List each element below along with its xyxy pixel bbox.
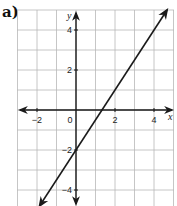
plotted-line <box>40 10 168 206</box>
y-tick-label: 4 <box>67 25 72 35</box>
y-tick-label: 2 <box>67 65 72 75</box>
y-tick-label: −4 <box>62 185 72 195</box>
x-tick-label: 0 <box>67 115 72 125</box>
y-axis-label: y <box>66 10 72 21</box>
x-tick-label: −2 <box>32 115 42 125</box>
coordinate-graph: −202442−2−4xy <box>0 0 177 206</box>
x-tick-label: 4 <box>151 115 156 125</box>
x-axis-label: x <box>167 111 173 122</box>
y-tick-label: −2 <box>62 145 72 155</box>
x-tick-label: 2 <box>112 115 117 125</box>
